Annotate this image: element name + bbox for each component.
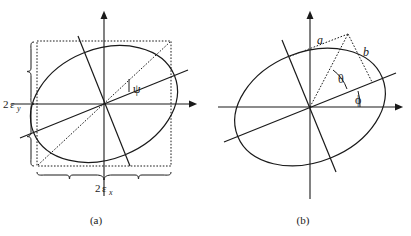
- label-phi: ϕ: [355, 93, 361, 107]
- label-2-epsilon-y-subscript: y: [16, 104, 21, 113]
- brace-width-left: [37, 172, 104, 180]
- label-semi-major-a: a: [317, 33, 323, 47]
- figure-root: 2 ε y 2 ε x ψ (a): [0, 0, 411, 236]
- label-2-epsilon-x-main: 2: [95, 182, 101, 194]
- minor-axis-b: [282, 40, 336, 172]
- caption-panel-a: (a): [90, 214, 103, 227]
- brace-width-right: [104, 172, 171, 180]
- label-2-epsilon-y: 2 ε y: [3, 98, 21, 113]
- theta-ray-dashed: [310, 34, 348, 107]
- epsilon-glyph-x: ε: [102, 182, 107, 194]
- caption-panel-b: (b): [297, 214, 310, 227]
- label-2-epsilon-x-subscript: x: [108, 188, 113, 197]
- label-semi-minor-b: b: [363, 45, 369, 59]
- epsilon-glyph-y: ε: [10, 98, 15, 110]
- label-theta: θ: [338, 72, 344, 86]
- panel-a: 2 ε y 2 ε x ψ (a): [3, 18, 195, 227]
- panel-b: a b θ ϕ (b): [217, 18, 403, 227]
- ellipse-geometry-figure: 2 ε y 2 ε x ψ (a): [0, 0, 411, 236]
- brace-height-upper: [27, 42, 34, 104]
- label-2-epsilon-y-main: 2: [3, 98, 9, 110]
- label-psi: ψ: [133, 82, 141, 96]
